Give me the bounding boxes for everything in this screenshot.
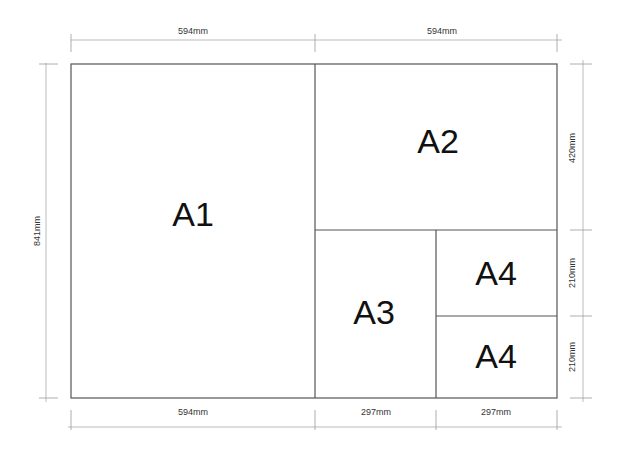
right-dimension: 420mm 210mm 210mm [567,60,592,402]
dim-right-a4-bottom: 210mm [567,342,577,372]
dim-bottom-a4: 297mm [481,407,511,417]
dim-right-a2: 420mm [567,133,577,163]
dim-top-left: 594mm [178,26,208,36]
top-dimension: 594mm 594mm [71,26,562,52]
label-a3: A3 [353,293,395,331]
label-a4-top: A4 [475,254,517,292]
dim-right-a4-top: 210mm [567,258,577,288]
label-a1: A1 [172,195,214,233]
label-a4-bottom: A4 [475,337,517,375]
dim-bottom-a1: 594mm [178,407,208,417]
dim-bottom-a3: 297mm [361,407,391,417]
dim-left-height: 841mm [32,216,42,246]
paper-size-diagram: A1 A2 A3 A4 A4 594mm 594mm 594mm 297mm 2… [0,0,619,453]
dim-top-right: 594mm [427,26,457,36]
label-a2: A2 [417,122,459,160]
left-dimension: 841mm [32,63,58,402]
bottom-dimension: 594mm 297mm 297mm [68,407,562,430]
